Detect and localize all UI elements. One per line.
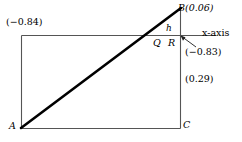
point-label-q: Q <box>153 38 161 48</box>
value-label-top-left: (−0.84) <box>6 17 43 27</box>
leader-arrowhead-icon <box>181 36 186 41</box>
height-label-h: h <box>166 24 172 33</box>
x-axis-label: x-axis <box>202 28 229 38</box>
value-label-r: (−0.83) <box>185 47 222 57</box>
vertex-label-c: C <box>183 120 190 130</box>
diagonal-line-ab <box>21 8 181 128</box>
geometry-figure: B(0.06) (−0.84) h x-axis Q R (−0.83) (0.… <box>0 0 242 142</box>
value-label-right-side: (0.29) <box>185 74 214 84</box>
vertex-label-a: A <box>9 121 16 131</box>
vertex-label-b: B(0.06) <box>178 3 214 13</box>
point-label-r: R <box>168 38 175 48</box>
